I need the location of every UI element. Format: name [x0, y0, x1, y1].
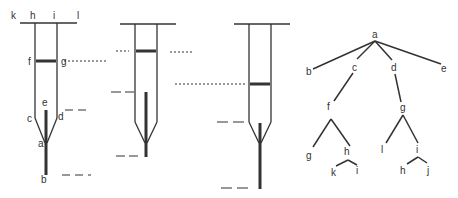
label-d: d [58, 111, 64, 122]
edge-a-b [313, 41, 375, 69]
label-i: i [53, 10, 55, 21]
node-f-g: g [306, 150, 312, 161]
edge-a-c [357, 41, 375, 59]
edge-f-h [331, 119, 350, 146]
edge-g-l [386, 115, 403, 143]
diagram-svg: k h i l f g e c d a b a b c d e f g g h … [0, 0, 458, 198]
node-i: i [416, 144, 418, 155]
edge-h-k [336, 160, 348, 166]
edge-i-j [418, 157, 427, 163]
edge-g-i [403, 115, 418, 143]
node-h: h [344, 146, 350, 157]
edge-d-g [395, 74, 401, 102]
node-i-h: h [400, 165, 406, 176]
label-l: l [77, 10, 79, 21]
label-g: g [61, 56, 67, 67]
syringe-1 [20, 23, 108, 175]
label-f: f [28, 56, 31, 67]
label-c: c [27, 113, 32, 124]
edge-i-h [407, 157, 418, 164]
node-g: g [400, 102, 406, 113]
syringe-2 [111, 24, 245, 157]
tree-edges [313, 41, 441, 166]
syringe-3 [217, 24, 290, 189]
edge-c-f [334, 73, 353, 101]
syringe-2-taper-right [147, 122, 157, 143]
label-k: k [11, 10, 17, 21]
node-c: c [352, 62, 357, 73]
label-e: e [42, 97, 48, 108]
syringe-3-taper-left [249, 122, 259, 143]
label-h: h [30, 10, 36, 21]
edge-f-g [313, 119, 331, 147]
node-h-i: i [356, 165, 358, 176]
tree-labels: a b c d e f g g h k i l i h j [306, 29, 447, 178]
syringe-2-taper-left [135, 122, 145, 143]
node-b: b [306, 66, 312, 77]
diagram-canvas: k h i l f g e c d a b a b c d e f g g h … [0, 0, 458, 198]
label-b: b [41, 174, 47, 185]
node-d: d [391, 62, 397, 73]
node-f: f [327, 101, 330, 112]
node-a: a [372, 29, 378, 40]
node-k: k [331, 167, 337, 178]
label-a: a [38, 138, 44, 149]
node-l: l [381, 144, 383, 155]
syringe-3-taper-right [261, 122, 271, 143]
node-e: e [441, 63, 447, 74]
syringe-1-taper-right [47, 118, 57, 143]
node-j: j [426, 165, 429, 176]
